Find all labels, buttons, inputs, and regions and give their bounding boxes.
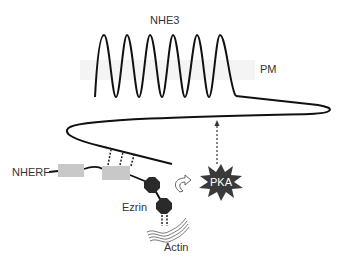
ezrin-label: Ezrin: [122, 202, 147, 213]
binding-line: [131, 155, 134, 166]
binding-line: [120, 152, 123, 165]
actin-label: Actin: [164, 242, 188, 253]
pka-label: PKA: [210, 177, 232, 188]
ezrin-domain-2: [156, 198, 172, 214]
phosphorylation-arrow-icon: [175, 175, 191, 192]
pka-arrow-head: [215, 120, 220, 126]
nherf-ezrin-linker: [130, 175, 147, 182]
nhe3-transmembrane-wave: [95, 35, 236, 97]
actin-filaments: [147, 218, 189, 242]
nherf-tail: [49, 171, 58, 172]
nhe3-label: NHE3: [150, 15, 179, 26]
pdz1-box: [58, 164, 84, 177]
pdz2-box: [102, 166, 130, 180]
binding-line: [108, 150, 111, 165]
nherf-backbone: [84, 167, 103, 169]
ezrin-domain-1: [144, 177, 160, 193]
nhe3-c-terminal-tail: [67, 96, 330, 164]
nhe3-regulation-diagram: [0, 0, 343, 260]
pm-label: PM: [260, 64, 277, 75]
nherf-label: NHERF: [12, 167, 50, 178]
